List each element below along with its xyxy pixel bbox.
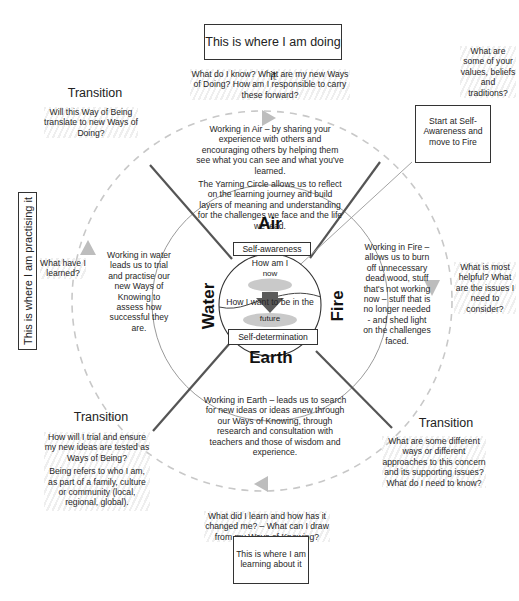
self-determination-label: Self-determination [229, 330, 317, 344]
top-right-question: What are some of your values, beliefs an… [460, 46, 516, 98]
transition-bottom-left-title: Transition [56, 410, 146, 424]
self-determination-box: Self-determination [228, 329, 318, 345]
bottom-box-label: This is where I am learning about it [234, 537, 308, 570]
self-awareness-box: Self-awareness [233, 242, 311, 256]
transition-bottom-left-text-1: How will I trial and ensure my new ideas… [44, 432, 150, 463]
transition-bottom-right-text: What are some different ways or differen… [382, 436, 486, 488]
now-ellipse [248, 279, 292, 292]
element-earth: Earth [238, 348, 304, 368]
transition-top-left-title: Transition [50, 86, 140, 100]
right-question: What is most helpful? What are the issue… [454, 262, 516, 314]
fire-quadrant-text: Working in Fire – allows us to burn off … [362, 242, 432, 346]
how-i-want-label: How I want to be in the [224, 297, 316, 307]
arrow-up-icon [80, 240, 96, 255]
now-label: now [256, 269, 284, 279]
transition-bottom-left-text-2: Being refers to who I am, as part of a f… [44, 466, 150, 508]
start-box-label: Start at Self-Awareness and move to Fire [416, 106, 490, 147]
start-box: Start at Self-Awareness and move to Fire [415, 105, 491, 163]
air-text-1: Working in Air – by sharing your experie… [196, 124, 344, 176]
water-quadrant-text: Working in water leads us to trial and p… [106, 250, 172, 333]
self-awareness-label: Self-awareness [234, 243, 310, 255]
top-box: This is where I am doing it [204, 24, 342, 60]
element-air: Air [248, 214, 292, 234]
element-fire: Fire [328, 286, 348, 326]
transition-top-left-text: Will this Way of Being translate to new … [44, 107, 138, 138]
left-box: This is where I am practising it [18, 192, 37, 350]
earth-quadrant-text: Working in Earth – leads us to search fo… [200, 395, 350, 457]
transition-bottom-left-text: How will I trial and ensure my new ideas… [44, 432, 150, 511]
future-label: future [254, 314, 286, 324]
element-water: Water [199, 281, 219, 331]
left-question: What have I learned? [40, 258, 86, 279]
how-am-i-label: How am I [244, 258, 296, 268]
arrow-left-icon [254, 476, 268, 492]
bottom-box: This is where I am learning about it [233, 536, 309, 584]
transition-bottom-right-title: Transition [410, 416, 482, 430]
top-question: What do I know? What are my new Ways of … [190, 69, 350, 100]
left-box-label: This is where I am practising it [22, 197, 34, 345]
